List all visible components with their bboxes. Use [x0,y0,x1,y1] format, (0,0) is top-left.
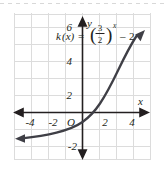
x-axis-label: x [137,95,143,107]
equation-argument: (x) [62,30,75,43]
equation-right-paren: ) [106,24,112,46]
graph-canvas: y x 6 4 2 -2 O -4 -2 2 4 k (x) = ( 3 2 )… [0,0,164,170]
x-tick-label-4: 4 [129,116,135,128]
y-tick-label-4: 4 [67,55,73,67]
equation-numerator: 3 [98,23,103,33]
y-axis-arrow-bottom [79,150,86,158]
y-axis-arrow-top [79,18,86,26]
equation-equals-sign: = [78,30,84,42]
function-curve [22,36,137,138]
curve-arrow-right [135,30,145,41]
x-axis-arrow-right [140,109,148,116]
y-tick-label-2: 2 [67,89,73,101]
y-tick-label-neg2: -2 [68,140,78,152]
equation-constant: 2 [129,30,135,42]
equation-left-paren: ( [90,24,96,46]
x-tick-label-2: 2 [102,116,108,128]
origin-label: O [67,116,75,128]
x-tick-label-neg4: -4 [25,116,35,128]
equation-minus-sign: – [119,30,126,42]
x-axis-arrow-left [15,109,23,116]
curve-arrow-left [15,134,25,143]
equation-exponent: x [112,21,117,30]
figure-container: y x 6 4 2 -2 O -4 -2 2 4 k (x) = ( 3 2 )… [0,0,164,170]
x-tick-label-neg2: -2 [48,116,58,128]
equation-denominator: 2 [98,35,103,45]
